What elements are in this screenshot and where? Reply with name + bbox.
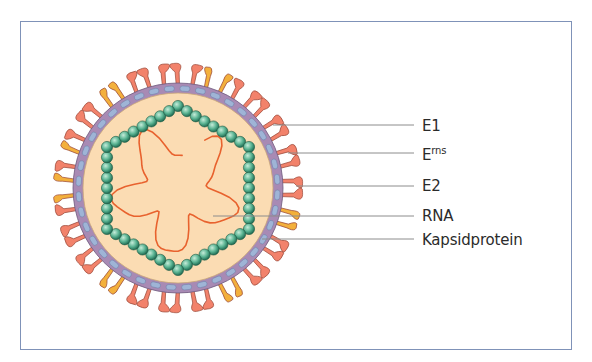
membrane-protein — [274, 174, 280, 184]
label-kapsidprotein: Kapsidprotein — [422, 233, 523, 248]
capsid-bead — [243, 162, 254, 173]
capsid-bead — [243, 213, 254, 224]
capsid-bead — [243, 182, 254, 193]
capsid-bead — [243, 203, 254, 214]
capsid-bead — [101, 152, 112, 163]
capsid-bead — [101, 182, 112, 193]
capsid-bead — [243, 172, 254, 183]
membrane-protein — [166, 284, 176, 290]
capsid-bead — [101, 172, 112, 183]
capsid-bead — [243, 152, 254, 163]
label-e2: E2 — [422, 179, 441, 194]
capsid-bead — [164, 106, 175, 117]
label-erns: Erns — [422, 148, 446, 163]
membrane-protein — [180, 86, 190, 92]
capsid-bead — [101, 223, 112, 234]
membrane-protein — [76, 191, 82, 201]
membrane-protein — [181, 284, 191, 290]
label-rna: RNA — [422, 209, 453, 224]
virion-diagram — [0, 0, 592, 362]
capsid-bead — [243, 193, 254, 204]
capsid-bead — [101, 213, 112, 224]
membrane-protein — [76, 176, 82, 186]
capsid-bead — [101, 203, 112, 214]
membrane-protein — [274, 190, 280, 200]
capsid-bead — [243, 141, 254, 152]
capsid-bead — [101, 162, 112, 173]
membrane-protein — [164, 86, 174, 92]
label-e1: E1 — [422, 119, 441, 134]
capsid-bead — [101, 193, 112, 204]
